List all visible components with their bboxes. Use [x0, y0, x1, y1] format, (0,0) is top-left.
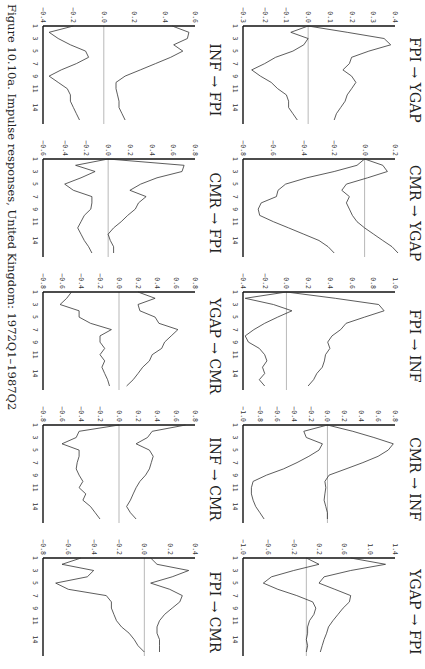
svg-text:−0.4: −0.4 — [77, 406, 85, 422]
svg-text:−0.2: −0.2 — [115, 539, 123, 555]
confidence-band-upper — [151, 558, 189, 652]
svg-text:0.2: 0.2 — [166, 543, 174, 555]
svg-text:5: 5 — [231, 448, 239, 452]
line-chart: 0.40.20.0−0.2−0.4−0.6−0.8135791114 — [21, 532, 201, 662]
svg-text:−0.6: −0.6 — [64, 539, 72, 555]
svg-text:0.8: 0.8 — [369, 277, 377, 289]
irf-panel: YGAP → CMR0.80.60.40.20.0−0.2−0.4−0.6−0.… — [23, 266, 223, 396]
svg-text:0.0: 0.0 — [100, 11, 108, 23]
confidence-band-lower — [252, 26, 308, 120]
confidence-band-upper — [286, 292, 384, 386]
svg-text:14: 14 — [31, 237, 39, 245]
svg-text:1: 1 — [231, 157, 239, 161]
svg-text:1: 1 — [31, 157, 39, 161]
svg-text:5: 5 — [31, 315, 39, 319]
svg-text:−0.2: −0.2 — [330, 140, 338, 156]
svg-text:−0.6: −0.6 — [264, 539, 272, 555]
svg-text:5: 5 — [31, 448, 39, 452]
svg-text:0.8: 0.8 — [191, 410, 199, 422]
svg-text:−0.4: −0.4 — [290, 406, 298, 422]
svg-text:0.6: 0.6 — [191, 11, 199, 23]
svg-text:7: 7 — [231, 461, 239, 465]
svg-text:−1.0: −1.0 — [239, 539, 247, 555]
svg-text:−0.4: −0.4 — [90, 539, 98, 555]
irf-panel: YGAP → FPI1.41.00.60.2−0.2−0.6−1.0135791… — [223, 532, 423, 662]
svg-text:−0.6: −0.6 — [58, 273, 66, 289]
svg-text:9: 9 — [31, 74, 39, 78]
svg-text:3: 3 — [31, 303, 39, 307]
svg-text:−0.6: −0.6 — [58, 406, 66, 422]
svg-text:0.4: 0.4 — [153, 277, 161, 289]
line-chart: 0.80.60.40.20.0−0.2−0.4−0.6−0.8135791114 — [21, 266, 201, 396]
svg-text:11: 11 — [31, 351, 39, 359]
panel-title: CMR → YGAP — [407, 153, 423, 273]
line-chart: 0.60.40.20.0−0.2−0.4135791114 — [21, 0, 201, 130]
svg-text:1: 1 — [31, 290, 39, 294]
panel-title: YGAP → CMR — [207, 286, 223, 406]
svg-text:5: 5 — [231, 315, 239, 319]
svg-text:3: 3 — [231, 436, 239, 440]
svg-text:−0.1: −0.1 — [282, 7, 290, 23]
irf-panel: CMR → FPI0.80.60.40.20.0−0.2−0.4−0.61357… — [23, 133, 223, 263]
svg-text:14: 14 — [231, 370, 239, 378]
svg-text:1: 1 — [231, 556, 239, 560]
svg-text:14: 14 — [31, 503, 39, 511]
svg-text:−0.8: −0.8 — [39, 273, 47, 289]
svg-text:9: 9 — [31, 340, 39, 344]
svg-text:5: 5 — [31, 581, 39, 585]
svg-text:−0.8: −0.8 — [39, 539, 47, 555]
svg-text:0.6: 0.6 — [172, 410, 180, 422]
svg-text:0.0: 0.0 — [140, 543, 148, 555]
svg-text:0.2: 0.2 — [126, 144, 134, 156]
panel-title: INF → FPI — [207, 20, 223, 140]
svg-text:9: 9 — [31, 207, 39, 211]
svg-text:14: 14 — [231, 237, 239, 245]
svg-text:1.0: 1.0 — [391, 277, 399, 289]
svg-text:0.8: 0.8 — [391, 410, 399, 422]
confidence-band-upper — [127, 292, 178, 386]
svg-text:−0.4: −0.4 — [300, 140, 308, 156]
line-chart: 1.00.80.60.40.20.0−0.2−0.4135791114 — [221, 266, 401, 396]
svg-text:−0.6: −0.6 — [39, 140, 47, 156]
confidence-band-lower — [251, 425, 327, 519]
confidence-band-lower — [245, 292, 292, 386]
svg-text:9: 9 — [231, 207, 239, 211]
panel-title: FPI → YGAP — [407, 20, 423, 140]
line-chart: 0.20.0−0.2−0.4−0.6−0.8135791114 — [221, 133, 401, 263]
svg-text:1: 1 — [31, 423, 39, 427]
svg-text:−0.8: −0.8 — [256, 406, 264, 422]
panel-title: CMR → FPI — [207, 153, 223, 273]
svg-text:0.6: 0.6 — [340, 543, 348, 555]
confidence-band-upper — [319, 558, 386, 652]
irf-panel: CMR → YGAP0.20.0−0.2−0.4−0.6−0.813579111… — [223, 133, 423, 263]
svg-text:11: 11 — [231, 85, 239, 93]
svg-text:11: 11 — [31, 484, 39, 492]
svg-text:14: 14 — [231, 636, 239, 644]
confidence-band-lower — [258, 159, 364, 253]
svg-text:0.8: 0.8 — [191, 277, 199, 289]
svg-text:3: 3 — [231, 170, 239, 174]
svg-text:14: 14 — [31, 104, 39, 112]
svg-text:1: 1 — [231, 24, 239, 28]
svg-text:−0.4: −0.4 — [61, 140, 69, 156]
svg-text:0.2: 0.2 — [315, 543, 323, 555]
confidence-band-lower — [65, 159, 108, 253]
svg-text:0.4: 0.4 — [357, 410, 365, 422]
svg-text:3: 3 — [31, 170, 39, 174]
svg-text:0.8: 0.8 — [191, 144, 199, 156]
svg-text:11: 11 — [31, 617, 39, 625]
irf-panel: FPI → INF1.00.80.60.40.20.0−0.2−0.413579… — [223, 266, 423, 396]
confidence-band-upper — [342, 159, 398, 253]
svg-text:7: 7 — [31, 328, 39, 332]
confidence-band-lower — [62, 425, 119, 519]
svg-text:7: 7 — [31, 461, 39, 465]
confidence-band-upper — [308, 26, 391, 120]
panel-title: YGAP → FPI — [407, 552, 423, 669]
svg-text:−0.2: −0.2 — [82, 140, 90, 156]
svg-text:0.0: 0.0 — [304, 11, 312, 23]
svg-text:5: 5 — [231, 581, 239, 585]
irf-panel: FPI → YGAP0.40.30.20.10.0−0.1−0.2−0.3135… — [223, 0, 423, 130]
svg-text:0.0: 0.0 — [323, 410, 331, 422]
svg-text:7: 7 — [31, 195, 39, 199]
svg-text:0.4: 0.4 — [161, 11, 169, 23]
